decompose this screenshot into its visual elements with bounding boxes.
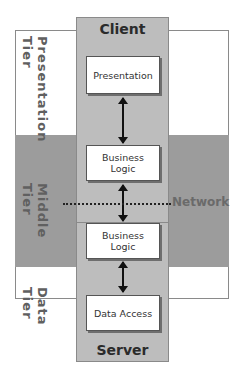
presentation-tier-line1: Presentation [35, 36, 50, 142]
presentation-box: Presentation [86, 56, 160, 94]
server-business-logic-line1: Business [102, 230, 144, 241]
server-title: Server [77, 342, 168, 358]
client-business-logic-line1: Business [102, 152, 144, 163]
presentation-to-logic-arrow-icon [122, 98, 124, 143]
data-access-box-label: Data Access [94, 308, 152, 319]
network-label: Network [172, 195, 229, 209]
data-access-box: Data Access [86, 295, 160, 331]
data-tier-line1: Data [35, 287, 50, 326]
client-business-logic-line2: Logic [111, 163, 136, 174]
middle-tier-line1: Middle [35, 183, 50, 238]
presentation-tier-line2: Tier [20, 36, 35, 69]
presentation-tier-label: Presentation Tier [20, 36, 50, 142]
client-business-logic-box: Business Logic [86, 145, 160, 181]
presentation-box-label: Presentation [93, 70, 153, 81]
logic-to-data-arrow-icon [122, 262, 124, 292]
middle-tier-line2: Tier [20, 183, 35, 216]
middle-tier-label: Middle Tier [20, 183, 50, 238]
server-business-logic-line2: Logic [111, 241, 136, 252]
client-title: Client [77, 21, 168, 37]
network-dotted-line [63, 203, 171, 205]
data-tier-line2: Tier [20, 287, 35, 320]
data-tier-label: Data Tier [20, 287, 50, 326]
server-business-logic-box: Business Logic [86, 223, 160, 259]
